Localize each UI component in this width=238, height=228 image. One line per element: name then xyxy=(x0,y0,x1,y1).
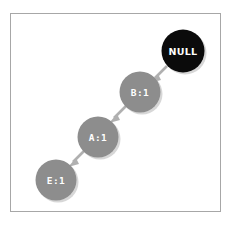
edge-a-to-e xyxy=(68,151,84,167)
edge-b-to-a xyxy=(109,106,126,123)
node-e-label: E:1 xyxy=(47,175,66,186)
node-null-label: NULL xyxy=(169,46,198,57)
node-e[interactable]: E:1 xyxy=(36,160,79,203)
node-a-label: A:1 xyxy=(89,132,108,143)
node-null[interactable]: NULL xyxy=(162,30,207,75)
node-a[interactable]: A:1 xyxy=(78,117,121,160)
node-b-label: B:1 xyxy=(131,87,150,98)
linked-list-graph: E:1 A:1 B:1 NULL xyxy=(0,0,238,228)
diagram-canvas: E:1 A:1 B:1 NULL xyxy=(0,0,238,228)
